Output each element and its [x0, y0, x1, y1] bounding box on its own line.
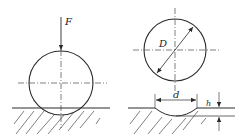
- indent-diameter-label: d: [173, 89, 179, 100]
- indented-surface: [128, 108, 235, 116]
- diameter-label: D: [158, 38, 167, 49]
- brinell-hardness-diagram: F D d h: [0, 0, 248, 139]
- left-panel: [12, 17, 110, 134]
- force-label: F: [64, 16, 73, 27]
- indent-depth-label: h: [206, 99, 211, 108]
- right-panel: [128, 8, 235, 134]
